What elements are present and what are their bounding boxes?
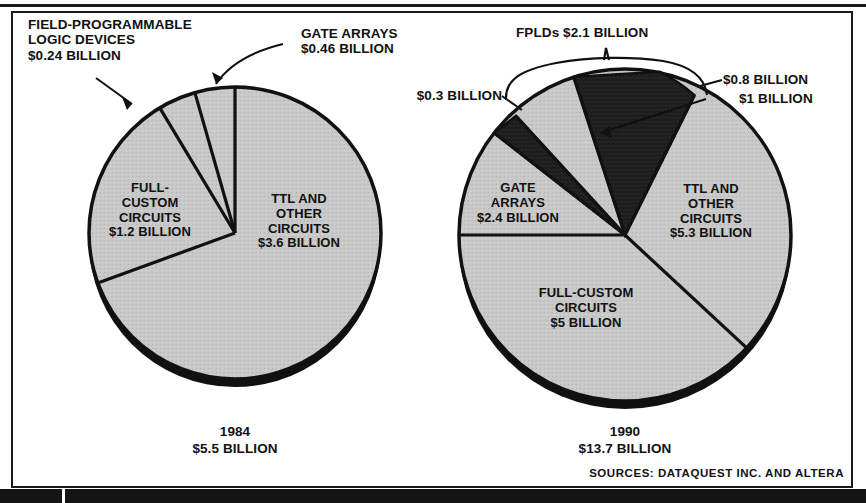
- label-total-1984: $5.5 BILLION: [160, 441, 310, 456]
- label-full-custom-1990: FULL-CUSTOM CIRCUITS $5 BILLION: [502, 286, 670, 330]
- label-seg-1-1990: $1 BILLION: [739, 91, 813, 106]
- label-seg-08-1990: $0.8 BILLION: [723, 72, 808, 87]
- label-year-1990: 1990: [550, 424, 700, 439]
- label-ttl-1990: TTL AND OTHER CIRCUITS $5.3 BILLION: [648, 182, 774, 241]
- pie-chart-figure: FIELD-PROGRAMMABLE LOGIC DEVICES $0.24 B…: [0, 0, 866, 503]
- bottom-band: [0, 489, 866, 503]
- label-fplds-bracket-1990: FPLDs $2.1 BILLION: [516, 25, 648, 40]
- label-seg-03-1990: $0.3 BILLION: [390, 88, 502, 103]
- label-total-1990: $13.7 BILLION: [550, 441, 700, 456]
- label-full-custom-1984: FULL- CUSTOM CIRCUITS $1.2 BILLION: [96, 181, 204, 240]
- bottom-band-notch: [62, 489, 65, 503]
- label-gate-arrays-1990: GATE ARRAYS $2.4 BILLION: [457, 181, 579, 225]
- source-note: SOURCES: DATAQUEST INC. AND ALTERA: [589, 467, 844, 479]
- label-ttl-1984: TTL AND OTHER CIRCUITS $3.6 BILLION: [240, 192, 358, 251]
- top-rule: [0, 4, 866, 7]
- label-gate-arrays-1984: GATE ARRAYS $0.46 BILLION: [301, 26, 398, 57]
- label-year-1984: 1984: [160, 424, 310, 439]
- label-fpld-1984: FIELD-PROGRAMMABLE LOGIC DEVICES $0.24 B…: [28, 17, 192, 63]
